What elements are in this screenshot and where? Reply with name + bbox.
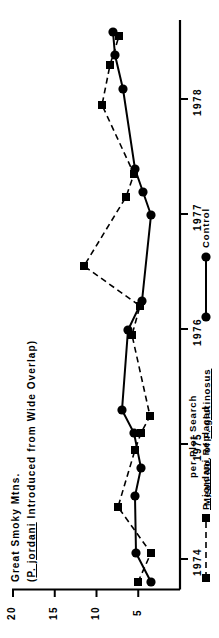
- figure-rotator: 20 15 10 5 1974 1975 1976 1977 1978 Grea…: [0, 0, 219, 638]
- series-markers-jordani-replaced: [80, 32, 155, 586]
- title-species-jordani: P. jordani: [26, 522, 37, 577]
- xtick-label-1978: 1978: [192, 88, 203, 116]
- xtick-label-1974: 1974: [192, 548, 203, 576]
- legend-glyph-jordani-replaced: [202, 514, 210, 582]
- series-line-control: [113, 32, 151, 582]
- legend-glyph-control: [201, 252, 210, 321]
- chart-title-line-2: (P. jordani Introduced from Wide Overlap…: [26, 340, 37, 582]
- title-remainder: Introduced from Wide Overlap): [26, 340, 37, 522]
- ylabel-line-2: per Plot Search: [187, 395, 198, 478]
- ytick-label-15: 15: [48, 606, 59, 620]
- legend-species-jordani: P. jordani: [200, 459, 211, 510]
- title-paren-open: (: [26, 578, 37, 582]
- chart-figure: 20 15 10 5 1974 1975 1976 1977 1978 Grea…: [0, 0, 219, 638]
- xtick-label-1976: 1976: [192, 318, 203, 346]
- value-axis-ticks: [13, 590, 138, 598]
- ytick-label-10: 10: [90, 606, 101, 620]
- ytick-label-5: 5: [132, 609, 143, 616]
- series-markers-control: [108, 27, 155, 586]
- chart-title-line-1: Great Smoky Mtns.: [10, 473, 21, 582]
- legend-label-jordani-replaced: P. jordani Replaced: [200, 406, 211, 510]
- year-axis-ticks: [180, 99, 188, 559]
- legend-label-control: Control: [200, 208, 211, 248]
- ytick-label-20: 20: [6, 606, 17, 620]
- legend-jordani-suffix: Replaced: [200, 406, 211, 459]
